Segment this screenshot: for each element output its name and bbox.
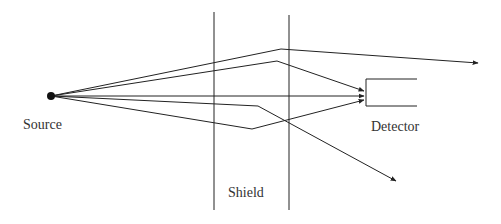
rays-group (51, 49, 478, 181)
ray-scattered-to-detector-lower (51, 96, 364, 129)
shield-label: Shield (228, 185, 264, 201)
ray-scattered-to-detector-upper (51, 61, 364, 96)
detector-label: Detector (371, 119, 419, 135)
shielding-diagram: Source Shield Detector (0, 0, 501, 224)
detector-box (366, 79, 417, 106)
source-label: Source (23, 117, 62, 133)
ray-scattered-away-lower (51, 96, 396, 181)
ray-scattered-away-upper (51, 49, 478, 96)
source-dot (47, 92, 55, 100)
